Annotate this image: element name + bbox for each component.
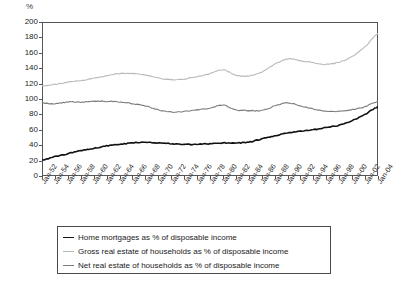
y-axis-tick-label: 160 (14, 49, 38, 57)
plot-area (42, 22, 378, 176)
legend-color-swatch (63, 251, 74, 252)
y-axis-tick-label: 20 (14, 157, 38, 165)
legend-item-label: Gross real estate of households as % of … (78, 247, 288, 256)
chart-series-line (42, 107, 378, 160)
chart-series-line (42, 101, 378, 113)
y-axis-tick-label: 120 (14, 80, 38, 88)
y-axis-tick-label: 140 (14, 64, 38, 72)
legend-item-label: Net real estate of households as % of di… (78, 261, 279, 270)
chart-legend: Home mortgages as % of disposable income… (57, 226, 331, 274)
legend-item[interactable]: Home mortgages as % of disposable income (62, 230, 326, 244)
chart-lines (42, 22, 378, 176)
y-axis-tick-label: 60 (14, 126, 38, 134)
y-axis-tick-label: 0 (14, 172, 38, 180)
y-axis-tick-label: 40 (14, 141, 38, 149)
legend-item[interactable]: Net real estate of households as % of di… (62, 258, 326, 272)
chart-series-line (42, 34, 378, 86)
chart-figure: % 020406080100120140160180200Jan-52Jan-5… (0, 0, 402, 284)
legend-item-label: Home mortgages as % of disposable income (78, 233, 237, 242)
legend-item[interactable]: Gross real estate of households as % of … (62, 244, 326, 258)
y-axis-tick-label: 200 (14, 18, 38, 26)
legend-color-swatch (63, 265, 74, 266)
y-axis-tick-label: 80 (14, 110, 38, 118)
y-axis-tick-label: 100 (14, 95, 38, 103)
legend-color-swatch (63, 237, 74, 238)
y-axis-tick-label: 180 (14, 33, 38, 41)
